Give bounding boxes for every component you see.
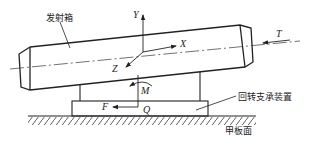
launcher-box [19,25,253,90]
support-posts [80,72,200,101]
thrust-label: T [276,28,283,39]
axis-y-label: Y [133,9,140,20]
leader-line-support [196,96,236,110]
coordinate-axes [126,15,176,67]
launcher-force-diagram: 发射箱 Y X Z T 回转支承装置 M F Q 甲板面 [0,0,309,150]
label-deck-surface: 甲板面 [225,125,252,136]
axis-z-label: Z [112,63,118,74]
deck-hatching [28,117,256,125]
vertical-load-label: Q [143,104,151,115]
horizontal-force-label: F [101,101,109,112]
label-slewing-support: 回转支承装置 [238,91,292,102]
label-launcher-box: 发射箱 [46,12,73,23]
axis-x-label: X [179,38,187,49]
moment-label: M [140,85,150,96]
centerline [10,41,300,69]
slewing-support-base [72,101,208,116]
